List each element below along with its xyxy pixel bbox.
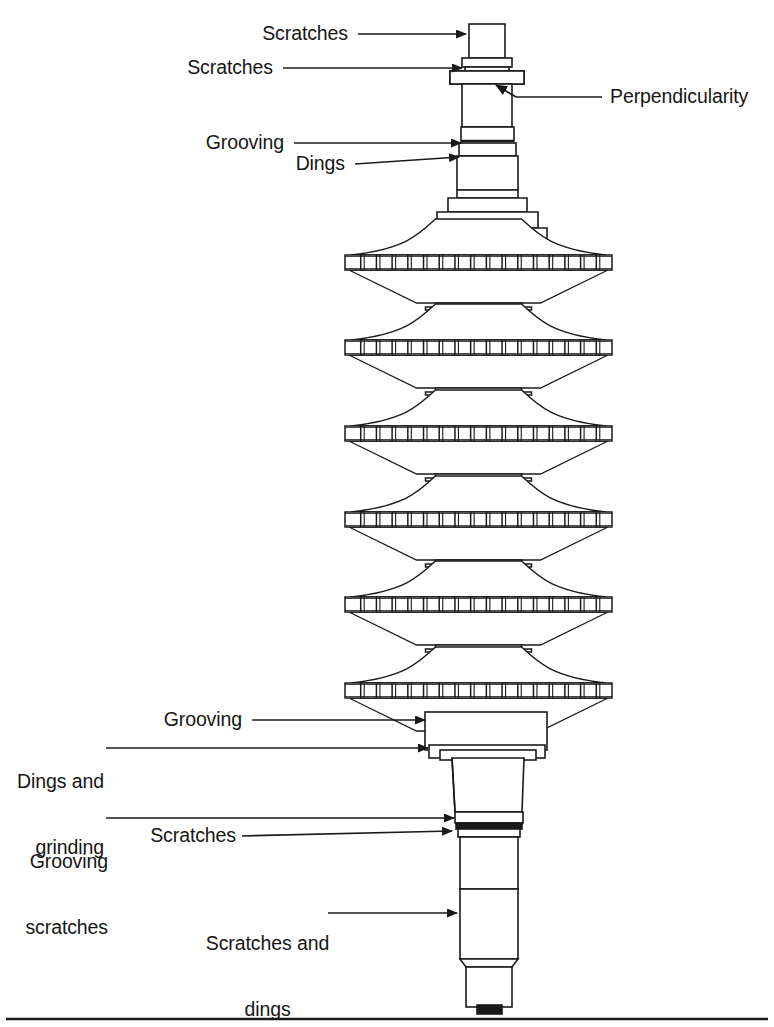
disc-assembly-1	[345, 219, 612, 310]
grooving-band-top	[461, 127, 514, 141]
callout-line-1: Dings and	[8, 770, 104, 792]
callout-label-scratches-and-dings: Scratches and dings	[190, 888, 345, 1027]
scratches-dark-band	[456, 823, 522, 829]
disc-blade-band-5	[345, 597, 612, 612]
disc-web-lower-3	[349, 441, 608, 474]
shaft-step-1	[457, 190, 518, 198]
disc-blade-band-1	[345, 255, 612, 270]
perpendicularity-flange-face	[450, 71, 524, 84]
leader-scratches-lower	[242, 831, 452, 836]
disc-assembly-group	[345, 219, 612, 737]
grooving-scratches-band	[455, 812, 523, 823]
disc-web-upper-6	[351, 647, 606, 683]
shaft-scratches-dings-upper	[460, 837, 518, 889]
shaft-below-dings	[457, 156, 518, 190]
shaft-tip-endcap	[477, 1005, 502, 1014]
shaft-top-stub	[469, 24, 505, 58]
disc-blade-band-6	[345, 683, 612, 698]
callout-label-grooving-top: Grooving	[188, 131, 284, 153]
callout-label-scratches-top: Scratches	[248, 22, 348, 44]
disc-web-upper-1	[351, 219, 606, 255]
disc-web-upper-3	[351, 390, 606, 426]
disc-web-lower-5	[349, 612, 608, 645]
callout-label-grooving-bottom: Grooving	[146, 708, 242, 730]
disc-assembly-4	[345, 476, 612, 567]
disc-assembly-5	[345, 561, 612, 652]
leader-path-dings-top	[355, 157, 459, 164]
callout-line-2: dings	[190, 998, 345, 1020]
rotor-body	[428, 24, 547, 240]
callout-label-scratches-second: Scratches	[173, 56, 273, 78]
disc-web-lower-4	[349, 527, 608, 560]
shaft-bottom-taper	[460, 959, 518, 967]
shaft-step-2	[448, 198, 527, 212]
figure-root: Scratches Scratches Perpendicularity Gro…	[0, 0, 774, 1027]
callout-label-grooving-scratches: Grooving scratches	[4, 806, 108, 982]
scratches-thin-band	[458, 829, 520, 837]
callout-label-dings-top: Dings	[284, 152, 345, 174]
disc-web-lower-1	[349, 270, 608, 303]
disc-web-upper-5	[351, 561, 606, 597]
disc-assembly-3	[345, 390, 612, 481]
disc-web-lower-2	[349, 355, 608, 388]
callout-label-scratches-lower: Scratches	[140, 824, 236, 846]
disc-blade-band-4	[345, 512, 612, 527]
rotor-lower-body	[425, 712, 547, 1014]
callout-line-2: scratches	[4, 916, 108, 938]
callout-line-1: Scratches and	[190, 932, 345, 954]
shaft-top-collar	[462, 58, 512, 67]
shaft-lower-journal	[452, 758, 524, 812]
disc-blade-band-3	[345, 426, 612, 441]
rotor-cross-section-drawing	[0, 0, 774, 1027]
callout-line-1: Grooving	[4, 850, 108, 872]
shaft-bottom-tip	[466, 967, 512, 1007]
disc-web-upper-2	[351, 304, 606, 340]
disc-blade-band-2	[345, 340, 612, 355]
leader-path-scratches-lower	[242, 831, 452, 836]
dings-band-top	[459, 143, 516, 156]
leader-dings-top	[355, 157, 459, 164]
disc-web-upper-4	[351, 476, 606, 512]
shaft-scratches-dings-lower	[460, 889, 518, 959]
callout-label-perpendicularity: Perpendicularity	[610, 85, 774, 107]
disc-assembly-2	[345, 304, 612, 395]
